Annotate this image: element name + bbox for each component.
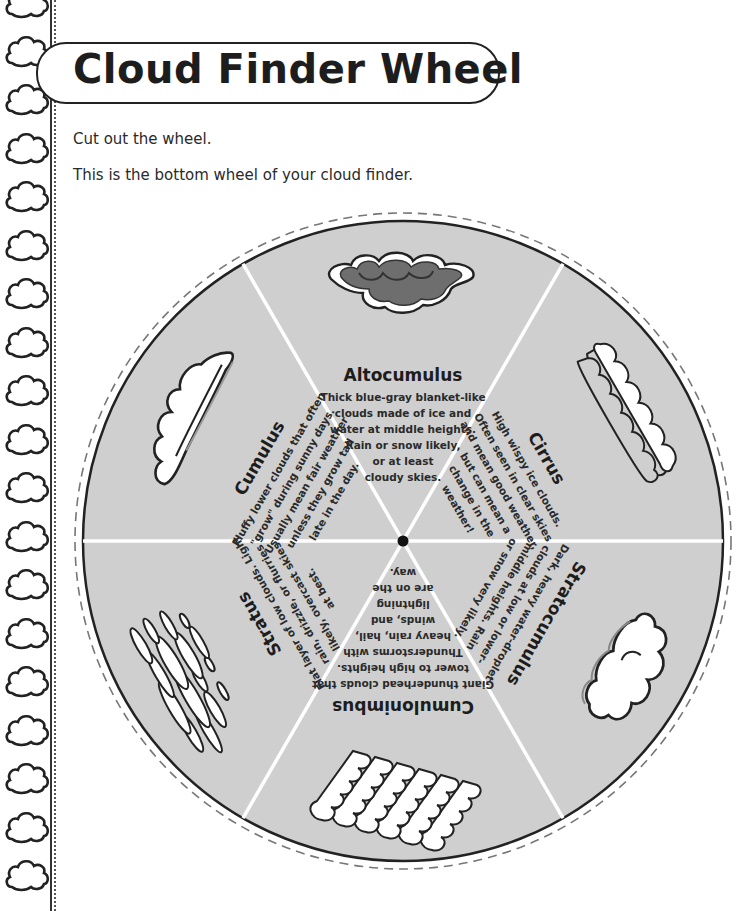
center-pivot <box>398 536 409 547</box>
sector-description-line: are on the <box>372 583 433 595</box>
sector-description-line: way. <box>390 567 416 579</box>
sector-description-line: Thick blue-gray blanket-like <box>320 391 485 403</box>
sector-description-line: winds, and <box>371 615 435 627</box>
sector-description-line: heavy rain, hail, <box>355 631 451 643</box>
sector-title: Cumulonimbus <box>332 697 474 717</box>
sector-description-line: lightning <box>376 599 429 611</box>
sector-description-line: tower to high heights. <box>337 663 469 675</box>
sector-description-line: Rain or snow likely, <box>346 439 461 451</box>
sector-description-line: water at middle heights. <box>330 423 476 435</box>
sector-description-line: clouds made of ice and <box>335 407 471 419</box>
sector-description-line: Thunderstorms with <box>343 647 463 659</box>
sector-description-line: cloudy skies. <box>365 471 442 483</box>
sector-description-line: or at least <box>373 455 434 467</box>
sector-description-line: Giant thunderhead clouds that <box>312 679 494 691</box>
cloud-finder-wheel: AltocumulusThick blue-gray blanket-likec… <box>0 0 736 911</box>
sector-title: Altocumulus <box>344 365 463 385</box>
